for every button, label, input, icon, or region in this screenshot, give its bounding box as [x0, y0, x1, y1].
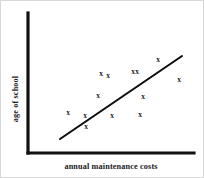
data-point-marker: x — [156, 55, 160, 64]
data-point-marker: x — [99, 69, 103, 78]
data-point-marker: x — [84, 122, 88, 131]
data-point-marker: x — [96, 91, 100, 100]
x-axis-label: annual maintenance costs — [64, 162, 157, 171]
trend-line — [60, 56, 182, 139]
data-point-marker: x — [83, 111, 87, 120]
data-point-marker: x — [177, 75, 181, 84]
y-axis-label: age of school — [11, 75, 20, 122]
data-point-marker: x — [110, 111, 114, 120]
data-point-marker: x — [66, 108, 70, 117]
data-point-marker: x — [135, 67, 139, 76]
data-point-marker: x — [106, 71, 110, 80]
data-point-marker: x — [138, 110, 142, 119]
scatter-plot-figure: xxxxxxxxxxxxx annual maintenance costs a… — [0, 0, 204, 178]
data-point-markers: xxxxxxxxxxxxx — [66, 55, 181, 131]
data-point-marker: x — [131, 67, 135, 76]
data-point-marker: x — [141, 92, 145, 101]
plot-canvas: xxxxxxxxxxxxx annual maintenance costs a… — [1, 1, 204, 178]
trend-line-group — [60, 56, 182, 139]
axes-group — [28, 13, 194, 153]
